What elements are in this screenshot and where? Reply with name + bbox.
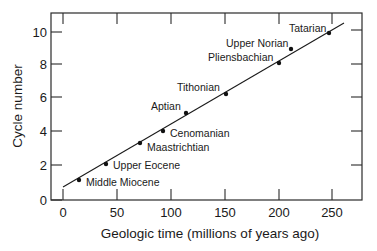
y-tick-label: 10 <box>33 25 47 40</box>
y-tick-label: 2 <box>40 158 47 173</box>
data-point-cenomanian <box>161 129 165 133</box>
point-label-tatarian: Tatarian <box>289 22 327 34</box>
x-tick-label: 250 <box>321 205 343 220</box>
x-tick-label: 100 <box>160 205 182 220</box>
x-tick-label: 50 <box>110 205 124 220</box>
point-label-upper-norian: Upper Norian <box>226 37 289 49</box>
data-point-aptian <box>184 111 188 115</box>
plot-frame <box>51 13 362 200</box>
x-tick-label: 0 <box>59 205 66 220</box>
y-tick-label: 8 <box>40 57 47 72</box>
x-ticks-bottom <box>63 189 332 200</box>
y-tick-label: 0 <box>40 193 47 208</box>
point-label-aptian: Aptian <box>151 100 181 112</box>
x-tick-label: 150 <box>214 205 236 220</box>
x-tick-label: 200 <box>268 205 290 220</box>
data-point-maastrichtian <box>138 141 142 145</box>
point-label-upper-eocene: Upper Eocene <box>113 159 180 171</box>
data-point-tatarian <box>327 31 331 35</box>
data-point-middle-miocene <box>77 178 81 182</box>
x-axis-title: Geologic time (millions of years ago) <box>101 226 319 241</box>
chart: 0 50 100 150 200 250 0 2 4 6 8 10 Geolog… <box>0 0 377 251</box>
point-label-middle-miocene: Middle Miocene <box>86 176 160 188</box>
y-tick-label: 6 <box>40 90 47 105</box>
y-ticks-left <box>51 32 62 200</box>
point-label-maastrichtian: Maastrichtian <box>147 141 210 153</box>
point-label-tithonian: Tithonian <box>177 81 220 93</box>
point-label-pliensbachian: Pliensbachian <box>208 51 274 63</box>
data-point-tithonian <box>224 92 228 96</box>
y-ticks-right <box>351 30 362 165</box>
y-tick-label: 4 <box>40 124 47 139</box>
y-tick-labels: 0 2 4 6 8 10 <box>33 25 47 208</box>
data-point-upper-norian <box>289 47 293 51</box>
y-axis-title: Cycle number <box>10 64 25 148</box>
data-point-upper-eocene <box>104 162 108 166</box>
x-tick-labels: 0 50 100 150 200 250 <box>59 205 342 220</box>
point-label-cenomanian: Cenomanian <box>170 127 230 139</box>
data-point-pliensbachian <box>277 61 281 65</box>
